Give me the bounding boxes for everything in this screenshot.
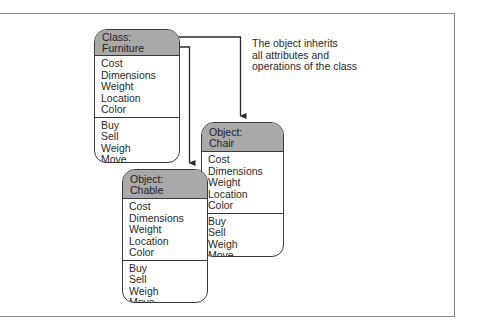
operations-section: Buy Sell Weigh Move xyxy=(95,118,179,164)
inheritance-note: The object inherits all attributes and o… xyxy=(252,38,357,73)
operation: Move xyxy=(208,250,283,257)
operation: Sell xyxy=(208,227,283,239)
header-name: Chair xyxy=(209,138,283,149)
operation: Sell xyxy=(101,131,179,143)
header-name: Chable xyxy=(130,185,207,196)
operation: Sell xyxy=(129,274,207,286)
operations-section: Buy Sell Weigh Move xyxy=(202,214,283,258)
object-chair-box: Object: Chair Cost Dimensions Weight Loc… xyxy=(201,122,284,257)
attribute: Color xyxy=(129,247,207,259)
class-header: Class: Furniture xyxy=(95,30,179,56)
operations-section: Buy Sell Weigh Move xyxy=(123,261,207,304)
operation: Move xyxy=(129,297,207,303)
attribute: Color xyxy=(208,200,283,212)
attribute: Weight xyxy=(129,224,207,236)
note-line: operations of the class xyxy=(252,61,357,73)
attribute: Cost xyxy=(101,58,179,70)
header-name: Furniture xyxy=(102,43,179,54)
class-furniture-box: Class: Furniture Cost Dimensions Weight … xyxy=(94,29,180,163)
object-header: Object: Chable xyxy=(123,170,207,199)
arrow-to-chair xyxy=(179,37,241,116)
attributes-section: Cost Dimensions Weight Location Color xyxy=(202,152,283,214)
attributes-section: Cost Dimensions Weight Location Color xyxy=(123,199,207,261)
arrow-to-chable xyxy=(179,47,190,163)
attribute: Cost xyxy=(129,201,207,213)
attribute: Weight xyxy=(208,177,283,189)
attribute: Cost xyxy=(208,154,283,166)
object-chable-box: Object: Chable Cost Dimensions Weight Lo… xyxy=(122,169,208,303)
attribute: Weight xyxy=(101,81,179,93)
attributes-section: Cost Dimensions Weight Location Color xyxy=(95,56,179,118)
note-line: The object inherits xyxy=(252,38,357,50)
attribute: Color xyxy=(101,104,179,116)
object-header: Object: Chair xyxy=(202,123,283,152)
operation: Move xyxy=(101,154,179,163)
